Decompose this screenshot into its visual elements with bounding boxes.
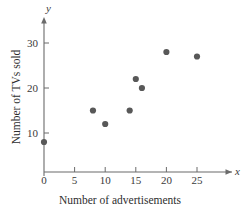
y-axis-symbol: y — [46, 3, 51, 14]
tick-marks-group — [44, 43, 197, 172]
y-axis-title: Number of TVs sold — [10, 32, 22, 162]
data-point — [194, 53, 200, 59]
scatter-plot-figure: 0510152025102030 y x Number of advertise… — [0, 0, 246, 213]
data-point — [90, 107, 96, 113]
data-point — [127, 107, 133, 113]
y-axis-arrowhead — [41, 17, 47, 24]
x-axis-title: Number of advertisements — [20, 194, 220, 206]
x-tick-label-25: 25 — [177, 175, 217, 186]
axes-group — [41, 17, 232, 176]
x-axis-symbol: x — [235, 166, 240, 177]
data-point — [133, 76, 139, 82]
data-point — [139, 85, 145, 91]
data-point — [163, 49, 169, 55]
data-point — [102, 121, 108, 127]
data-point — [41, 139, 47, 145]
x-axis-arrowhead — [226, 169, 233, 175]
data-points-group — [41, 49, 200, 145]
